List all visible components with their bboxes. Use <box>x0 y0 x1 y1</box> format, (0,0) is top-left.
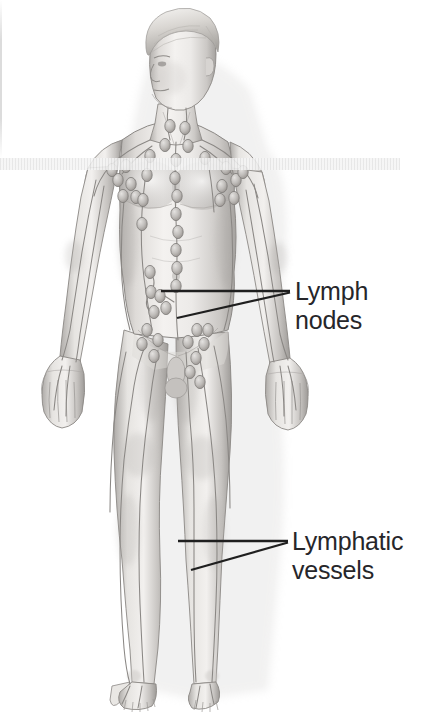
foot-left <box>188 682 219 712</box>
foot-right <box>110 682 157 712</box>
label-lymphatic-vessels-line2: vessels <box>292 556 403 585</box>
label-lymphatic-vessels: Lymphatic vessels <box>292 527 403 585</box>
label-lymphatic-vessels-line1: Lymphatic <box>292 527 403 555</box>
hand-right <box>42 356 85 428</box>
label-lymph-nodes-line2: nodes <box>295 306 368 335</box>
label-lymph-nodes: Lymph nodes <box>295 277 368 335</box>
lymphatic-system-illustration <box>0 0 428 725</box>
label-lymph-nodes-line1: Lymph <box>295 277 368 305</box>
page-bottom-band <box>0 158 400 170</box>
hand-left <box>265 358 308 430</box>
